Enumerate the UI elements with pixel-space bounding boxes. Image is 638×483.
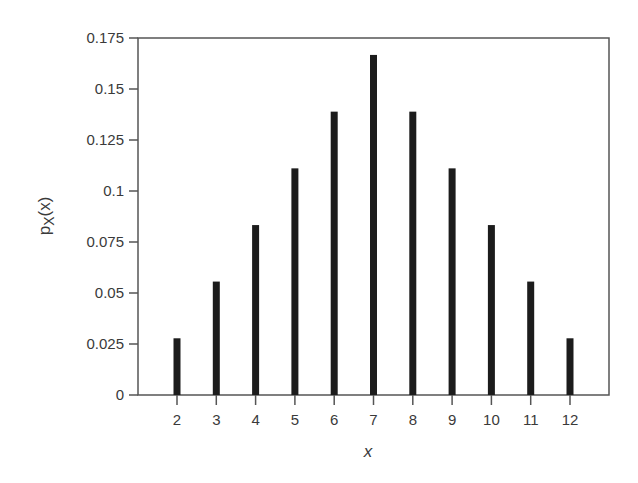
y-tick-label: 0.15 [95,80,124,97]
bar [567,338,574,395]
y-axis-label: pX(x) [35,197,57,236]
bars [174,55,574,395]
bar [527,282,534,395]
y-tick-label: 0.175 [86,29,124,46]
bar [449,168,456,395]
x-tick-label: 6 [330,411,338,428]
y-tick-label: 0.1 [103,182,124,199]
bar [213,282,220,395]
x-axis-label: x [363,442,373,461]
x-tick-label: 7 [369,411,377,428]
y-tick-label: 0.075 [86,233,124,250]
x-tick-label: 5 [291,411,299,428]
x-tick-label: 9 [448,411,456,428]
y-tick-label: 0.025 [86,335,124,352]
bar [331,112,338,395]
x-tick-label: 3 [212,411,220,428]
bar [409,112,416,395]
y-tick-label: 0 [116,386,124,403]
x-tick-label: 10 [483,411,500,428]
x-tick-label: 4 [251,411,259,428]
x-tick-label: 12 [562,411,579,428]
x-tick-label: 2 [173,411,181,428]
bar [488,225,495,395]
x-tick-label: 8 [409,411,417,428]
x-tick-label: 11 [523,411,539,428]
bar [252,225,259,395]
bar [370,55,377,395]
y-tick-label: 0.125 [86,131,124,148]
y-tick-label: 0.05 [95,284,124,301]
x-axis: 23456789101112 [173,395,579,428]
bar [174,338,181,395]
y-axis: 00.0250.050.0750.10.1250.150.175 [86,29,138,403]
bar-chart: 00.0250.050.0750.10.1250.150.175 2345678… [0,0,638,483]
bar [291,168,298,395]
